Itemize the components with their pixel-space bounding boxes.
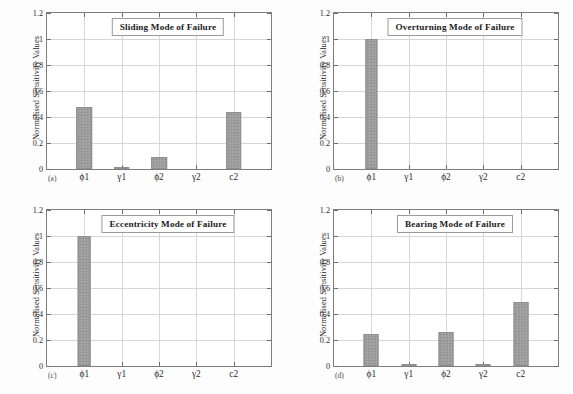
panel-letter-c: (c) <box>48 371 56 380</box>
y-axis-label-container-d: Normalised Sensitivity Values <box>297 205 311 365</box>
y-axis-tick-mark <box>47 91 51 92</box>
y-axis-tick-mark <box>334 65 338 66</box>
y-axis-tick-label: 0.8 <box>33 258 43 267</box>
x-axis-tick-mark <box>234 13 235 17</box>
x-axis-tick-mark <box>84 210 85 214</box>
y-axis-tick-label: 0.2 <box>33 336 43 345</box>
x-axis-tick-label: γ2 <box>192 369 201 379</box>
y-axis-tick-mark <box>47 210 51 211</box>
x-axis-tick-mark <box>409 210 410 214</box>
chart-panel-c: Normalised Sensitivity Values 00.20.40.6… <box>0 197 286 394</box>
y-axis-tick-mark <box>267 91 271 92</box>
panel-letter-a: (a) <box>48 174 56 183</box>
y-axis-tick-mark <box>554 169 558 170</box>
x-axis-tick-label: c2 <box>516 369 525 379</box>
x-axis-tick-mark <box>122 13 123 17</box>
y-axis-tick-label: 0.8 <box>320 258 330 267</box>
chart-panel-b: Normalised Sensitivity Values 00.20.40.6… <box>287 0 573 197</box>
y-axis-tick-mark <box>554 366 558 367</box>
plot-area-b: 00.20.40.60.811.2ϕ1γ1ϕ2γ2c2Overturning M… <box>333 12 559 170</box>
y-axis-tick-mark <box>267 236 271 237</box>
y-axis-tick-mark <box>267 169 271 170</box>
y-axis-tick-mark <box>334 117 338 118</box>
x-axis-tick-label: c2 <box>229 369 238 379</box>
x-axis-tick-mark <box>122 362 123 366</box>
y-axis-tick-mark <box>554 210 558 211</box>
x-axis-tick-mark <box>446 165 447 169</box>
chart-title: Sliding Mode of Failure <box>112 18 224 36</box>
x-axis-tick-label: ϕ2 <box>154 172 164 182</box>
x-axis-tick-mark <box>409 13 410 17</box>
y-axis-tick-mark <box>334 262 338 263</box>
y-axis-tick-mark <box>554 262 558 263</box>
y-axis-tick-mark <box>554 65 558 66</box>
y-axis-tick-label: 0.2 <box>320 336 330 345</box>
x-axis-tick-label: c2 <box>229 172 238 182</box>
x-axis-tick-label: ϕ1 <box>80 172 90 182</box>
y-axis-tick-label: 0.6 <box>320 87 330 96</box>
y-axis-tick-mark <box>267 117 271 118</box>
x-axis-tick-mark <box>371 13 372 17</box>
y-axis-tick-mark <box>47 13 51 14</box>
bar <box>476 364 491 366</box>
y-axis-tick-label: 1.2 <box>33 206 43 215</box>
y-axis-tick-mark <box>334 340 338 341</box>
y-axis-tick-label: 1.2 <box>320 206 330 215</box>
y-axis-tick-label: 1 <box>39 35 43 44</box>
x-axis-tick-mark <box>234 210 235 214</box>
x-axis-tick-mark <box>196 165 197 169</box>
y-axis-tick-label: 0.6 <box>33 284 43 293</box>
bar <box>439 332 454 366</box>
x-axis-tick-label: ϕ1 <box>80 369 90 379</box>
y-axis-tick-mark <box>554 340 558 341</box>
y-axis-tick-label: 0.6 <box>33 87 43 96</box>
x-axis-tick-label: c2 <box>516 172 525 182</box>
y-axis-tick-mark <box>267 288 271 289</box>
x-axis-tick-label: γ2 <box>479 172 488 182</box>
y-axis-tick-label: 0.8 <box>33 61 43 70</box>
bar <box>78 236 91 366</box>
y-axis-tick-mark <box>267 314 271 315</box>
x-axis-tick-mark <box>234 362 235 366</box>
y-axis-tick-label: 1 <box>39 232 43 241</box>
x-axis-tick-mark <box>483 165 484 169</box>
y-axis-tick-mark <box>267 13 271 14</box>
y-axis-label-container-a: Normalised Sensitivity Values <box>10 8 24 168</box>
x-axis-tick-label: γ2 <box>192 172 201 182</box>
x-axis-tick-label: ϕ2 <box>154 369 164 379</box>
y-axis-tick-label: 0 <box>326 165 330 174</box>
y-axis-tick-mark <box>267 262 271 263</box>
plot-area-c: 00.20.40.60.811.2ϕ1γ1ϕ2γ2c2Eccentricity … <box>46 209 272 367</box>
y-axis-tick-label: 0.4 <box>320 310 330 319</box>
bar <box>226 112 242 169</box>
y-axis-tick-mark <box>554 314 558 315</box>
y-axis-tick-mark <box>554 39 558 40</box>
x-axis-tick-label: γ2 <box>479 369 488 379</box>
chart-title: Eccentricity Mode of Failure <box>101 215 234 233</box>
x-axis-tick-label: γ1 <box>117 369 126 379</box>
y-axis-tick-mark <box>334 143 338 144</box>
bar <box>366 39 377 169</box>
y-axis-tick-mark <box>47 366 51 367</box>
x-axis-tick-label: ϕ1 <box>367 369 377 379</box>
y-axis-tick-mark <box>267 366 271 367</box>
panel-letter-b: (b) <box>335 174 344 183</box>
y-axis-tick-mark <box>334 39 338 40</box>
x-axis-tick-mark <box>446 210 447 214</box>
x-axis-tick-mark <box>483 13 484 17</box>
y-axis-tick-label: 0.2 <box>320 139 330 148</box>
y-axis-tick-mark <box>47 288 51 289</box>
y-axis-tick-mark <box>554 91 558 92</box>
x-axis-tick-mark <box>409 165 410 169</box>
y-axis-tick-mark <box>47 65 51 66</box>
x-axis-tick-label: γ1 <box>404 172 413 182</box>
x-axis-tick-mark <box>84 13 85 17</box>
plot-area-a: 00.20.40.60.811.2ϕ1γ1ϕ2γ2c2Sliding Mode … <box>46 12 272 170</box>
x-axis-tick-mark <box>196 210 197 214</box>
y-axis-tick-mark <box>267 65 271 66</box>
bar <box>76 107 92 169</box>
y-axis-tick-mark <box>554 117 558 118</box>
x-axis-tick-mark <box>159 210 160 214</box>
y-axis-tick-label: 0.4 <box>320 113 330 122</box>
y-axis-tick-label: 0 <box>326 362 330 371</box>
